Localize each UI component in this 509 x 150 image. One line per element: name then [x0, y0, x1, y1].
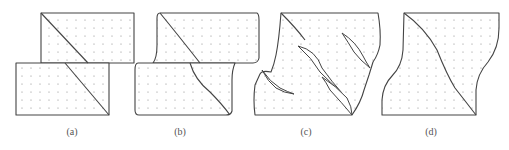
panel-a-bottom-block [16, 63, 109, 115]
panel-a [16, 13, 134, 115]
panel-b-top-block [153, 13, 259, 63]
panel-b [135, 13, 259, 115]
panel-b-bottom-block [135, 63, 235, 115]
panel-a-top-block [41, 13, 134, 63]
panel-d-deformed-block [382, 13, 499, 115]
panel-a-label: (a) [66, 126, 77, 137]
panel-c [254, 13, 380, 115]
panel-b-label: (b) [174, 126, 186, 137]
panel-d-label: (d) [425, 126, 437, 137]
panel-c-label: (c) [300, 126, 311, 137]
panel-d [382, 13, 499, 115]
